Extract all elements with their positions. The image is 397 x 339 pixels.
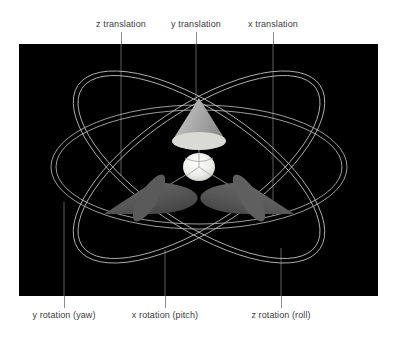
render-canvas <box>19 44 378 296</box>
leader-line-x-rotation <box>165 296 166 308</box>
label-z-translation: z translation <box>96 19 146 30</box>
cone-y-translation-base <box>172 132 226 150</box>
transform-gizmo-figure: z translation y translation x translatio… <box>0 0 397 339</box>
leader-line-y-translation <box>196 32 197 44</box>
label-x-rotation-pitch: x rotation (pitch) <box>132 310 198 321</box>
label-y-rotation-yaw: y rotation (yaw) <box>32 310 95 321</box>
label-y-translation: y translation <box>171 19 221 30</box>
label-z-rotation-roll: z rotation (roll) <box>251 310 310 321</box>
leader-line-z-rotation <box>281 296 282 308</box>
center-sphere[interactable] <box>183 153 215 181</box>
cone-z-translation[interactable] <box>101 170 197 225</box>
gizmo-scene <box>19 44 378 296</box>
leader-line-z-translation <box>121 32 122 44</box>
label-x-translation: x translation <box>248 19 298 30</box>
canvas-leader-lines <box>64 44 281 296</box>
leader-line-y-rotation <box>64 296 65 308</box>
leader-line-x-translation <box>273 32 274 44</box>
cone-x-translation[interactable] <box>200 170 294 225</box>
